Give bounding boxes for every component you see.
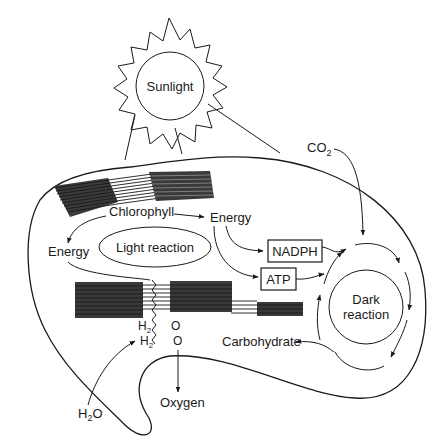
arrow-atp-cycle bbox=[296, 274, 324, 279]
h2-top-label: H2 bbox=[138, 319, 152, 335]
sun-ray bbox=[208, 104, 280, 153]
energy-left-path bbox=[68, 262, 150, 280]
arrow-energy-atp bbox=[214, 226, 258, 277]
oxygen-label: Oxygen bbox=[160, 395, 205, 410]
energy-right-label: Energy bbox=[210, 210, 252, 225]
light-reaction-label: Light reaction bbox=[116, 240, 194, 255]
water-label: H2O bbox=[78, 406, 103, 423]
arrow-nadph-cycle bbox=[322, 247, 346, 252]
arrow-energy-nadph bbox=[226, 226, 263, 251]
chlorophyll-label: Chlorophyll bbox=[109, 204, 174, 219]
dark-reaction-cycle: Dark reaction bbox=[317, 244, 410, 370]
o-bottom-label: O bbox=[173, 334, 182, 348]
sun-icon: Sunlight bbox=[114, 18, 227, 149]
nadph-label: NADPH bbox=[272, 244, 318, 259]
o-top-label: O bbox=[171, 319, 180, 333]
carbohydrate-label: Carbohydrate bbox=[222, 334, 301, 349]
dark-reaction-label: Dark bbox=[352, 292, 380, 307]
granum-upper-right bbox=[149, 171, 214, 201]
sunlight-label: Sunlight bbox=[147, 79, 194, 94]
arrow-co2-cycle bbox=[334, 149, 363, 235]
granum-lower-middle bbox=[170, 281, 232, 312]
photosynthesis-diagram: Sunlight Chlorophyll Energy bbox=[0, 0, 446, 443]
zigzag-energy-icon bbox=[152, 280, 156, 344]
arrow-cycle-carbohydrate bbox=[296, 342, 334, 352]
sun-ray bbox=[125, 115, 135, 160]
h2-bottom-label: H2 bbox=[140, 334, 154, 350]
granum-lower-right bbox=[257, 302, 303, 316]
dark-reaction-label-2: reaction bbox=[343, 307, 389, 322]
energy-left-label: Energy bbox=[48, 244, 90, 259]
arrow-chlorophyll-energy bbox=[174, 214, 204, 217]
arrow-chlorophyll-energy-left bbox=[68, 216, 106, 243]
co2-label: CO2 bbox=[307, 140, 332, 158]
atp-label: ATP bbox=[266, 272, 290, 287]
granum-lower-left bbox=[75, 282, 143, 318]
